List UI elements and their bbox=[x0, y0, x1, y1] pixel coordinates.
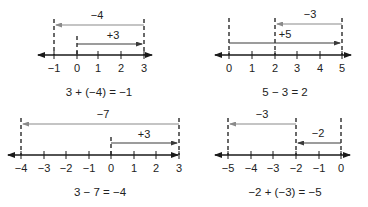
tick-label: −1 bbox=[83, 162, 96, 174]
tick-label: 4 bbox=[317, 62, 323, 74]
number-line-panel-top-left: −10123−4+33 + (−4) = −1 bbox=[38, 9, 152, 98]
tick-label: 2 bbox=[153, 162, 159, 174]
tick-label: −5 bbox=[222, 162, 235, 174]
number-line-panel-top-right: 012345−3+55 − 3 = 2 bbox=[215, 8, 351, 98]
tick-label: 0 bbox=[226, 62, 232, 74]
number-line-panel-bottom-left: −4−3−2−10123−7+33 − 7 = −4 bbox=[8, 108, 182, 198]
tick-label: 3 bbox=[294, 62, 300, 74]
tick-label: 3 bbox=[141, 62, 147, 74]
tick-label: 3 bbox=[176, 162, 182, 174]
tick-label: 2 bbox=[118, 62, 124, 74]
tick-label: −3 bbox=[38, 162, 51, 174]
tick-label: 0 bbox=[74, 62, 80, 74]
tick-label: 0 bbox=[338, 162, 344, 174]
tick-label: 1 bbox=[131, 162, 137, 174]
arrow-label: +3 bbox=[138, 128, 151, 140]
tick-label: −1 bbox=[48, 62, 61, 74]
arrow-label: −2 bbox=[312, 127, 325, 139]
tick-label: −3 bbox=[267, 162, 280, 174]
tick-label: −1 bbox=[313, 162, 326, 174]
tick-label: 5 bbox=[339, 62, 345, 74]
number-line-diagrams: −10123−4+33 + (−4) = −1012345−3+55 − 3 =… bbox=[0, 0, 368, 207]
arrow-label: +3 bbox=[107, 29, 120, 41]
tick-label: −4 bbox=[15, 162, 28, 174]
equation-caption: 3 − 7 = −4 bbox=[74, 186, 127, 198]
tick-label: 1 bbox=[95, 62, 101, 74]
arrow-label: −3 bbox=[304, 8, 317, 20]
equation-caption: 3 + (−4) = −1 bbox=[66, 86, 133, 98]
equation-caption: 5 − 3 = 2 bbox=[262, 86, 307, 98]
tick-label: −2 bbox=[60, 162, 73, 174]
tick-label: 1 bbox=[249, 62, 255, 74]
arrow-label: −4 bbox=[91, 9, 104, 21]
tick-label: −4 bbox=[245, 162, 258, 174]
tick-label: 2 bbox=[272, 62, 278, 74]
equation-caption: −2 + (−3) = −5 bbox=[248, 186, 321, 198]
tick-label: 0 bbox=[108, 162, 114, 174]
arrow-label: −7 bbox=[97, 108, 110, 120]
arrow-label: −3 bbox=[256, 108, 269, 120]
tick-label: −2 bbox=[290, 162, 303, 174]
number-line-panel-bottom-right: −5−4−3−2−10−3−2−2 + (−3) = −5 bbox=[215, 108, 350, 198]
arrow-label: +5 bbox=[279, 28, 292, 40]
